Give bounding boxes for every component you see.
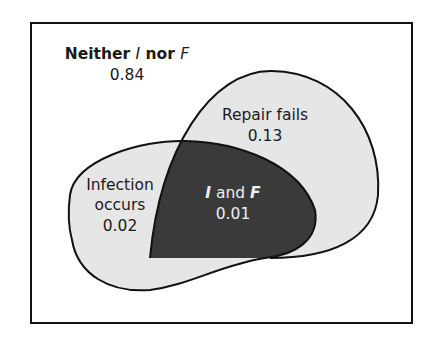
repair-fails-value: 0.13 — [248, 127, 283, 145]
venn-diagram: Neither I nor F 0.84 Repair fails 0.13 I… — [0, 0, 437, 341]
neither-value: 0.84 — [110, 66, 145, 84]
infection-label-line1: Infection — [86, 176, 154, 194]
intersection-label: I and F — [205, 184, 261, 202]
intersection-value: 0.01 — [216, 205, 251, 223]
infection-label-line2: occurs — [95, 196, 146, 214]
infection-value: 0.02 — [103, 217, 138, 235]
neither-label: Neither I nor F — [65, 45, 191, 63]
repair-fails-label: Repair fails — [222, 106, 308, 124]
